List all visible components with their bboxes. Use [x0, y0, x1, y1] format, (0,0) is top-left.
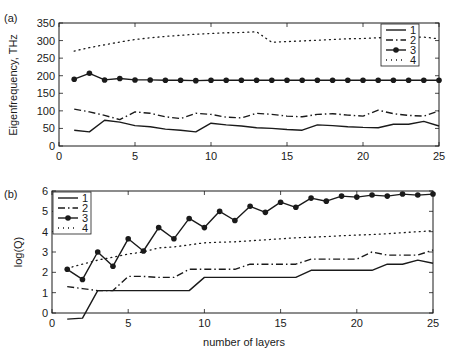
series-3-marker — [384, 193, 390, 199]
panel-b-legend: 1234 — [53, 192, 91, 234]
x-tick-label: 5 — [125, 317, 131, 329]
series-3-marker — [339, 193, 345, 199]
series-3-marker — [254, 77, 260, 83]
series-3-marker — [324, 198, 330, 204]
y-tick-label: 0 — [49, 140, 55, 152]
panel-a-legend: 1234 — [381, 24, 419, 66]
series-3-marker — [163, 77, 169, 83]
x-tick-label: 0 — [49, 317, 55, 329]
series-3-marker — [232, 218, 238, 224]
y-tick-label: 250 — [37, 52, 55, 64]
series-3-marker — [299, 77, 305, 83]
series-3-marker — [110, 263, 116, 269]
x-tick-label: 25 — [427, 317, 439, 329]
series-3-marker — [293, 204, 299, 210]
y-tick-label: 1 — [42, 287, 48, 299]
series-3-marker — [308, 195, 314, 201]
series-3-marker — [95, 249, 101, 255]
series-3-marker — [263, 210, 269, 216]
series-3-marker — [421, 77, 427, 83]
series-3-marker — [430, 191, 436, 197]
x-tick-label: 5 — [132, 150, 138, 162]
series-3-marker — [87, 70, 93, 76]
panel-b-y-axis-label: log(Q) — [12, 237, 24, 268]
series-3-marker — [178, 77, 184, 83]
y-tick-label: 3 — [42, 246, 48, 258]
series-3-marker — [239, 77, 245, 83]
x-tick-label: 10 — [205, 150, 217, 162]
legend-label-4: 4 — [82, 222, 88, 234]
series-3-marker — [415, 192, 421, 198]
series-3-marker — [80, 277, 86, 283]
series-3-marker — [247, 203, 253, 209]
x-tick-label: 20 — [351, 317, 363, 329]
series-2-line — [74, 109, 439, 120]
panel-b-logq-chart: (b) log(Q) number of layers 051015202501… — [4, 185, 439, 348]
series-3-marker — [125, 236, 131, 242]
series-3-marker — [284, 77, 290, 83]
series-3-marker — [71, 76, 77, 82]
series-3-marker — [193, 78, 199, 84]
x-tick-label: 15 — [274, 317, 286, 329]
y-tick-label: 6 — [42, 185, 48, 197]
series-3-marker — [391, 77, 397, 83]
y-tick-label: 2 — [42, 266, 48, 278]
series-3-marker — [436, 77, 442, 83]
series-3-marker — [186, 216, 192, 222]
panel-b-axes: 05101520250123456 — [42, 185, 439, 329]
series-1-line — [74, 120, 439, 132]
series-3-marker — [117, 76, 123, 82]
series-3-marker — [208, 77, 214, 83]
series-3-marker — [64, 266, 70, 272]
series-3-marker — [132, 77, 138, 83]
x-tick-label: 15 — [281, 150, 293, 162]
series-3-marker — [400, 191, 406, 197]
figure: (a) Eigenfrequency, THz 0510152025050100… — [0, 0, 457, 355]
series-3-marker — [171, 236, 177, 242]
panel-a-eigenfrequency-chart: (a) Eigenfrequency, THz 0510152025050100… — [4, 12, 445, 162]
x-tick-label: 0 — [56, 150, 62, 162]
x-tick-label: 20 — [357, 150, 369, 162]
y-tick-label: 350 — [37, 17, 55, 29]
series-3-marker — [360, 77, 366, 83]
y-tick-label: 100 — [37, 105, 55, 117]
panel-a-y-axis-label: Eigenfrequency, THz — [7, 34, 19, 136]
legend-label-4: 4 — [410, 54, 416, 66]
series-3-marker — [147, 77, 153, 83]
x-tick-label: 25 — [433, 150, 445, 162]
series-3-marker — [369, 192, 375, 198]
series-3-marker — [330, 77, 336, 83]
series-3-marker — [354, 194, 360, 200]
y-tick-label: 50 — [43, 122, 55, 134]
y-tick-label: 300 — [37, 35, 55, 47]
y-tick-label: 4 — [42, 226, 48, 238]
y-tick-label: 200 — [37, 70, 55, 82]
series-1-line — [67, 260, 433, 319]
series-3-marker — [345, 77, 351, 83]
y-tick-label: 150 — [37, 87, 55, 99]
panel-b-series — [64, 191, 435, 319]
panel-b-label: (b) — [4, 188, 17, 200]
plot-frame — [52, 191, 433, 313]
panel-b-x-axis-label: number of layers — [203, 336, 285, 348]
x-tick-label: 10 — [198, 317, 210, 329]
series-3-marker — [269, 77, 275, 83]
series-3-marker — [278, 199, 284, 205]
series-3-marker — [202, 225, 208, 231]
series-3-marker — [315, 77, 321, 83]
series-3-marker — [102, 77, 108, 83]
series-3-marker — [406, 77, 412, 83]
series-3-marker — [217, 209, 223, 215]
series-3-marker — [223, 77, 229, 83]
y-tick-label: 0 — [42, 307, 48, 319]
panel-a-label: (a) — [4, 12, 17, 24]
series-3-marker — [156, 225, 162, 231]
series-2-line — [67, 250, 433, 291]
y-tick-label: 5 — [42, 205, 48, 217]
series-3-marker — [375, 77, 381, 83]
